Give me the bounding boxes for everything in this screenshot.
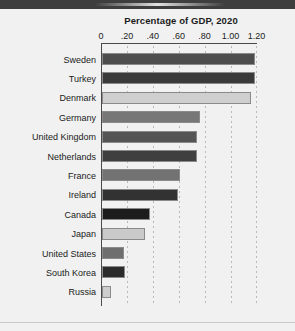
- bar: [102, 111, 200, 123]
- category-label: Netherlands: [2, 152, 96, 162]
- bar: [102, 72, 255, 84]
- x-tick-label: .60: [172, 31, 185, 41]
- x-tick-label: .80: [198, 31, 211, 41]
- x-tick-label: 1.20: [248, 31, 266, 41]
- x-axis-line: [101, 43, 257, 44]
- bar: [102, 189, 178, 201]
- bar: [102, 247, 124, 259]
- bar: [102, 266, 125, 278]
- bar: [102, 208, 150, 220]
- category-label: Turkey: [2, 74, 96, 84]
- x-tick-label: 1.00: [222, 31, 240, 41]
- x-tick-label: .40: [147, 31, 160, 41]
- category-label: South Korea: [2, 268, 96, 278]
- category-label: France: [2, 171, 96, 181]
- bar-chart-plot: 0.20.40.60.801.001.20 SwedenTurkeyDenmar…: [0, 0, 295, 331]
- bar: [102, 150, 197, 162]
- gridline: [256, 46, 257, 306]
- category-label: United States: [2, 249, 96, 259]
- category-label: Sweden: [2, 55, 96, 65]
- x-tick-label: .20: [121, 31, 134, 41]
- category-label: Canada: [2, 210, 96, 220]
- category-label: Ireland: [2, 190, 96, 200]
- chart-screenshot: Percentage of GDP, 2020 0.20.40.60.801.0…: [0, 0, 295, 331]
- bar: [102, 92, 251, 104]
- x-tick-label: 0: [98, 31, 103, 41]
- category-label: United Kingdom: [2, 132, 96, 142]
- category-label: Russia: [2, 287, 96, 297]
- bar: [102, 286, 111, 298]
- bar: [102, 169, 180, 181]
- gridline: [231, 46, 232, 306]
- bar: [102, 53, 255, 65]
- bar: [102, 131, 197, 143]
- bottom-divider: [0, 322, 295, 323]
- gridline: [205, 46, 206, 306]
- bar: [102, 228, 145, 240]
- category-label: Germany: [2, 113, 96, 123]
- category-label: Denmark: [2, 93, 96, 103]
- category-label: Japan: [2, 229, 96, 239]
